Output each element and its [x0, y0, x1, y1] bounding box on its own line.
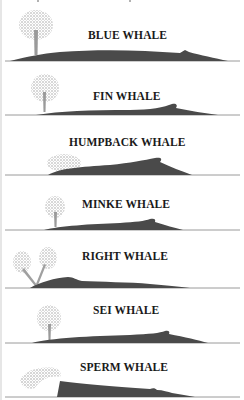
cropped-caption — [37, 0, 131, 2]
whale-body — [10, 50, 228, 61]
whale-label-right: RIGHT WHALE — [82, 250, 168, 262]
whale-label-sperm: SPERM WHALE — [80, 361, 168, 373]
whale-body — [57, 381, 195, 397]
whale-body — [44, 219, 183, 230]
spray-icon — [20, 368, 61, 389]
spray-icon — [19, 10, 53, 55]
whale-label-minke: MINKE WHALE — [82, 198, 170, 210]
whale-label-humpback: HUMPBACK WHALE — [69, 136, 186, 148]
whale-label-sei: SEI WHALE — [93, 304, 159, 316]
whale-label-fin: FIN WHALE — [93, 90, 160, 102]
whale-body — [36, 104, 218, 115]
humpback-whale-illustration — [5, 154, 240, 175]
spray-icon — [37, 305, 61, 340]
whale-label-blue: BLUE WHALE — [88, 29, 167, 41]
whale-body — [30, 277, 190, 288]
spray-icon — [45, 196, 65, 227]
spray-icon — [31, 74, 59, 112]
whale-body — [32, 331, 208, 343]
